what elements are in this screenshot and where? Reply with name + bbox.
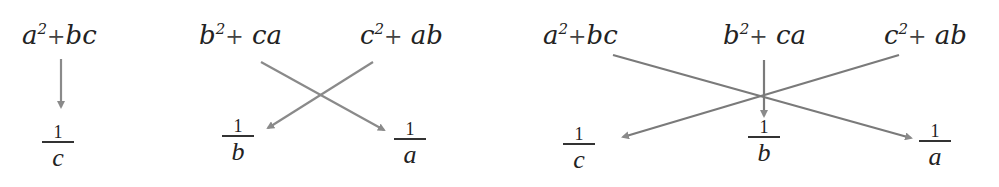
expr-rest: bc bbox=[587, 20, 618, 50]
denominator: a bbox=[394, 142, 426, 168]
expr-exponent: 2 bbox=[375, 20, 385, 38]
expr-base: b bbox=[199, 20, 216, 50]
expr-b2-plus-ca: b2+ ca bbox=[723, 22, 806, 48]
expr-rest: ab bbox=[935, 20, 967, 50]
fraction-1-over-a: 1 a bbox=[919, 123, 951, 170]
expr-exponent: 2 bbox=[216, 20, 226, 38]
expr-base: a bbox=[22, 20, 38, 50]
numerator: 1 bbox=[222, 118, 254, 134]
expr-rest: bc bbox=[66, 20, 97, 50]
expr-a2-plus-bc: a2+bc bbox=[22, 22, 97, 48]
numerator: 1 bbox=[748, 119, 780, 135]
plus-sign: + bbox=[384, 24, 402, 49]
expr-rest: ca bbox=[252, 20, 282, 50]
numerator: 1 bbox=[919, 123, 951, 139]
fraction-1-over-c: 1 c bbox=[563, 126, 595, 173]
expr-base: a bbox=[543, 20, 559, 50]
denominator: b bbox=[222, 139, 254, 165]
fraction-1-over-b: 1 b bbox=[222, 118, 254, 165]
expr-rest: ca bbox=[776, 20, 806, 50]
expr-c2-plus-ab: c2+ ab bbox=[360, 22, 443, 48]
expr-exponent: 2 bbox=[899, 20, 909, 38]
expr-exponent: 2 bbox=[740, 20, 750, 38]
arrows-layer bbox=[0, 0, 999, 187]
mapping-diagram: a2+bc 1 c b2+ ca c2+ ab 1 b 1 a a2+bc b2… bbox=[0, 0, 999, 187]
plus-sign: + bbox=[47, 24, 65, 49]
plus-sign: + bbox=[908, 24, 926, 49]
expr-rest: ab bbox=[411, 20, 443, 50]
fraction-1-over-b: 1 b bbox=[748, 119, 780, 166]
expr-base: b bbox=[723, 20, 740, 50]
expr-c2-plus-ab: c2+ ab bbox=[884, 22, 967, 48]
plus-sign: + bbox=[568, 24, 586, 49]
expr-exponent: 2 bbox=[559, 20, 569, 38]
arrow-c2ab-to-1b bbox=[268, 62, 373, 128]
expr-base: c bbox=[360, 20, 375, 50]
expr-exponent: 2 bbox=[38, 20, 48, 38]
numerator: 1 bbox=[394, 121, 426, 137]
denominator: a bbox=[919, 144, 951, 170]
numerator: 1 bbox=[563, 126, 595, 142]
denominator: c bbox=[42, 145, 74, 171]
numerator: 1 bbox=[42, 124, 74, 140]
denominator: b bbox=[748, 140, 780, 166]
expr-base: c bbox=[884, 20, 899, 50]
plus-sign: + bbox=[225, 24, 243, 49]
plus-sign: + bbox=[749, 24, 767, 49]
fraction-1-over-c: 1 c bbox=[42, 124, 74, 171]
fraction-1-over-a: 1 a bbox=[394, 121, 426, 168]
expr-a2-plus-bc: a2+bc bbox=[543, 22, 618, 48]
denominator: c bbox=[563, 147, 595, 173]
expr-b2-plus-ca: b2+ ca bbox=[199, 22, 282, 48]
